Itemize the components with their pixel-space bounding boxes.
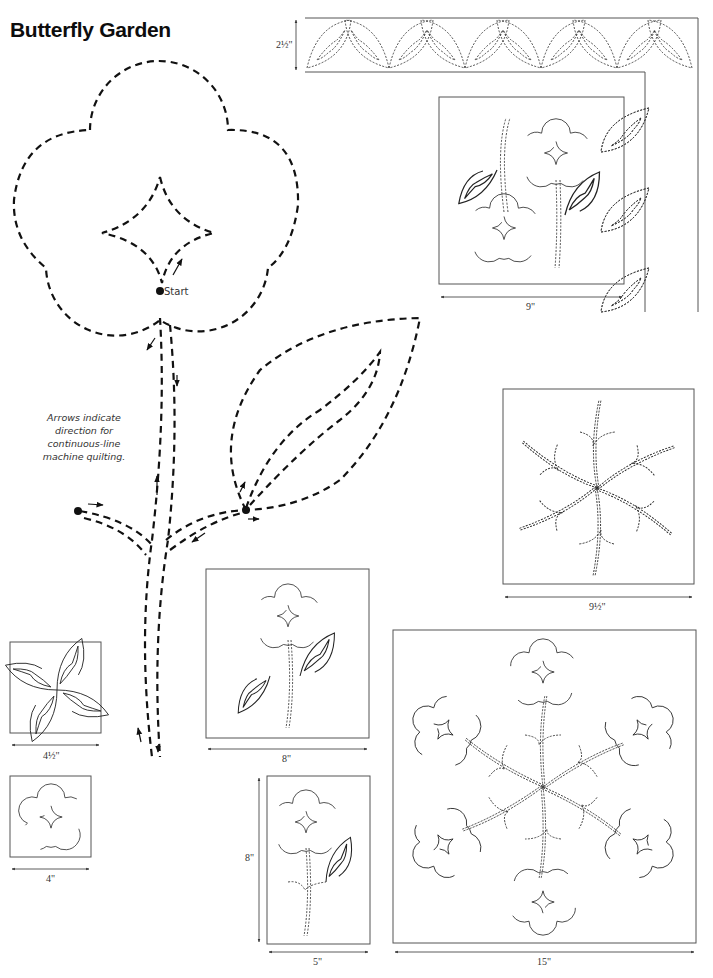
dim-block-leaf-x: 4½" bbox=[43, 750, 60, 761]
dim-block-small-flower: 4" bbox=[46, 873, 55, 884]
quilting-patterns-canvas bbox=[0, 0, 713, 978]
dim-block-narrow-height: 8" bbox=[245, 852, 254, 863]
dim-block-medallion: 15" bbox=[537, 956, 551, 967]
dim-block-single-flower: 8" bbox=[282, 753, 291, 764]
block-leaf-x bbox=[5, 638, 109, 745]
start-dot bbox=[156, 287, 164, 295]
block-two-flowers bbox=[439, 97, 624, 297]
block-small-flower bbox=[10, 776, 91, 869]
direction-arrows bbox=[88, 259, 259, 752]
start-label: Start bbox=[164, 286, 188, 297]
border-pattern bbox=[296, 18, 698, 312]
block-stem-star bbox=[503, 389, 694, 597]
leaf-junction-dot bbox=[242, 506, 250, 514]
branch-start-dot bbox=[74, 507, 82, 515]
dim-block-two-flowers: 9" bbox=[526, 301, 535, 312]
dim-border-width: 2½" bbox=[276, 39, 293, 50]
main-flower-pattern bbox=[14, 61, 420, 757]
block-narrow-flower bbox=[259, 776, 370, 952]
dim-block-stem-star: 9½" bbox=[589, 601, 606, 612]
block-single-flower bbox=[206, 569, 369, 749]
instruction-note: Arrows indicate direction for continuous… bbox=[34, 411, 134, 463]
dim-block-narrow-width: 5" bbox=[313, 956, 322, 967]
block-medallion bbox=[393, 630, 696, 952]
